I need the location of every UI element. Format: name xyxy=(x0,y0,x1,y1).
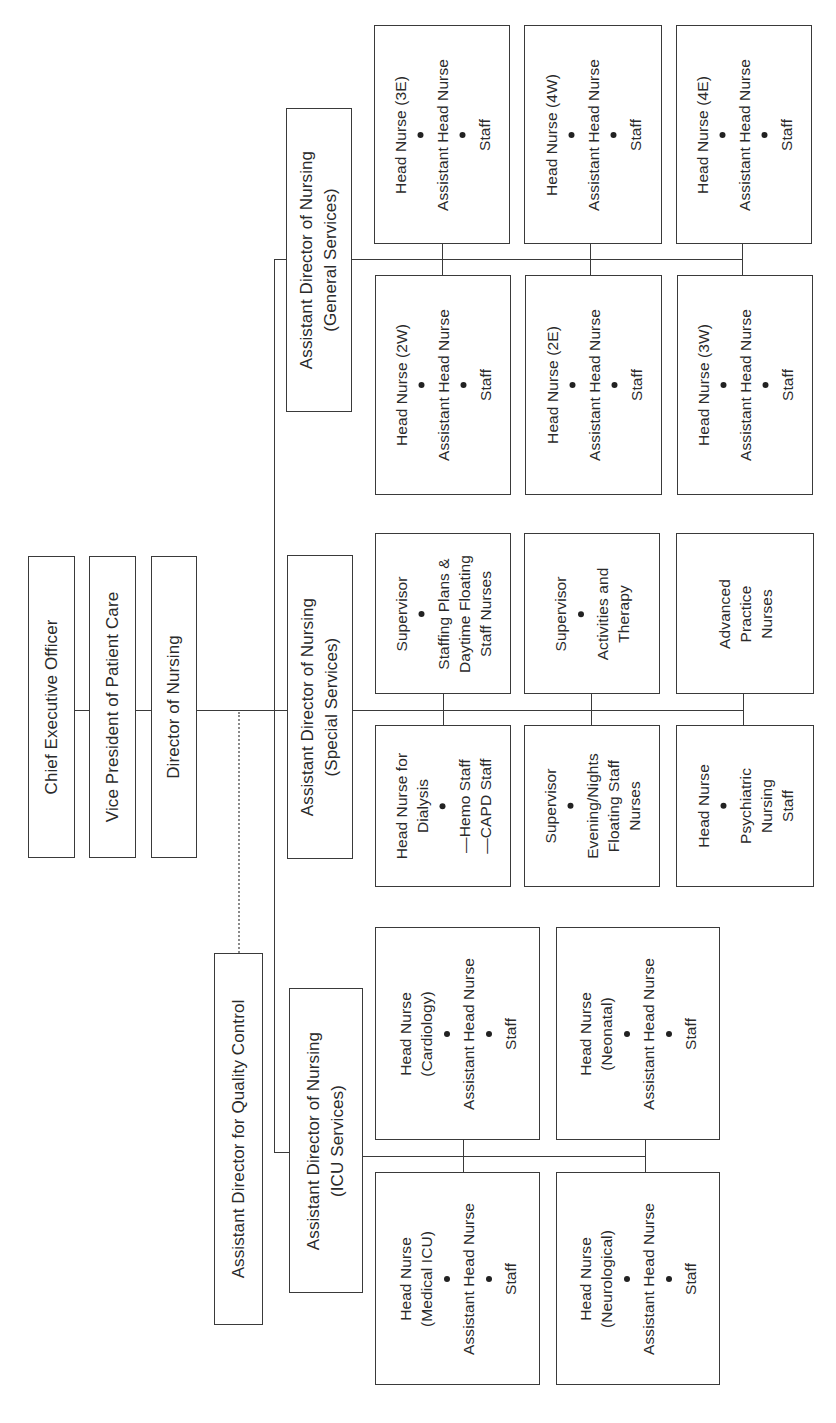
unit-specialty-label: (Neurological) xyxy=(596,1230,617,1328)
bullet-icon xyxy=(666,1031,672,1037)
ceo-label: Chief Executive Officer xyxy=(40,620,64,795)
bullet-icon xyxy=(624,1031,630,1037)
supervisor-label: Supervisor xyxy=(391,576,412,651)
assistant-head-nurse-label: Assistant Head Nurse xyxy=(735,309,756,461)
ceo-vp-connector xyxy=(75,710,89,711)
unit-desc-line: —Hemo Staff xyxy=(454,759,475,853)
assistant-head-nurse-label: Assistant Head Nurse xyxy=(734,59,755,211)
assistant-head-nurse-label: Assistant Head Nurse xyxy=(638,1203,659,1355)
special-unit-activities-supervisor: Supervisor Activities and Therapy xyxy=(524,533,660,694)
assistant-head-nurse-label: Assistant Head Nurse xyxy=(583,309,604,461)
special-col1-stem xyxy=(443,694,444,725)
unit-desc-line: Psychiatric xyxy=(735,768,756,844)
general-unit-3e: Head Nurse (3E) Assistant Head Nurse Sta… xyxy=(374,25,510,244)
unit-desc-line: —CAPD Staff xyxy=(475,758,496,854)
adon-general-box: Assistant Director of Nursing (General S… xyxy=(286,108,352,412)
head-nurse-label: Head Nurse for xyxy=(391,753,412,860)
quality-control-box: Assistant Director for Quality Control xyxy=(214,953,263,1325)
unit-desc-line: Nurses xyxy=(624,781,645,831)
vp-label: Vice President of Patient Care xyxy=(101,592,125,822)
special-col2-stem xyxy=(591,694,592,725)
assistant-head-nurse-label: Assistant Head Nurse xyxy=(433,309,454,461)
head-nurse-label: Head Nurse xyxy=(395,1237,416,1321)
adon-icu-box: Assistant Director of Nursing (ICU Servi… xyxy=(289,988,363,1293)
general-unit-2e: Head Nurse (2E) Assistant Head Nurse Sta… xyxy=(525,275,662,495)
unit-desc-line: Floating Staff xyxy=(603,760,624,852)
unit-desc-line: Staff xyxy=(777,790,798,822)
unit-desc-line: Activities and xyxy=(592,567,613,660)
adon-special-box: Assistant Director of Nursing (Special S… xyxy=(287,555,353,859)
head-nurse-label: Head Nurse (3E) xyxy=(390,76,411,194)
unit-specialty-label: (Cardiology) xyxy=(416,991,437,1077)
director-of-nursing-box: Director of Nursing xyxy=(151,556,197,858)
special-col3-stem xyxy=(743,694,744,725)
bullet-icon xyxy=(611,382,617,388)
bullet-icon xyxy=(419,611,425,617)
staff-label: Staff xyxy=(500,1262,521,1294)
bullet-icon xyxy=(440,803,446,809)
special-unit-evening-nights-supervisor: Supervisor Evening/Nights Floating Staff… xyxy=(524,725,660,887)
icu-bus xyxy=(363,1156,646,1157)
staff-label: Staff xyxy=(777,369,798,401)
head-nurse-label: Dialysis xyxy=(412,779,433,833)
adon-special-subtitle: (Special Services) xyxy=(320,638,344,777)
bullet-icon xyxy=(569,382,575,388)
head-nurse-label: Head Nurse (3W) xyxy=(693,324,714,446)
head-nurse-label: Head Nurse (4W) xyxy=(541,73,562,195)
general-col2-stem xyxy=(590,244,591,275)
icu-branch-connector xyxy=(274,1152,289,1153)
supervisor-label: Supervisor xyxy=(550,576,571,651)
assistant-head-nurse-label: Assistant Head Nurse xyxy=(458,958,479,1110)
unit-specialty-label: (Neonatal) xyxy=(596,997,617,1070)
special-unit-psychiatric: Head Nurse Psychiatric Nursing Staff xyxy=(676,725,814,887)
head-nurse-label: Head Nurse (2W) xyxy=(391,324,412,446)
bullet-icon xyxy=(666,1276,672,1282)
bullet-icon xyxy=(611,132,617,138)
head-nurse-label: Head Nurse (2E) xyxy=(541,326,562,444)
staff-label: Staff xyxy=(625,118,646,150)
bullet-icon xyxy=(721,382,727,388)
staff-label: Staff xyxy=(475,369,496,401)
staff-label: Staff xyxy=(474,118,495,150)
general-col1-stem xyxy=(442,244,443,275)
unit-desc-line: Daytime Floating xyxy=(454,555,475,673)
head-nurse-label: Head Nurse (4E) xyxy=(692,76,713,194)
bullet-icon xyxy=(460,132,466,138)
bullet-icon xyxy=(419,382,425,388)
adon-icu-subtitle: (ICU Services) xyxy=(326,1085,350,1197)
supervisor-label: Supervisor xyxy=(540,768,561,843)
bullet-icon xyxy=(486,1031,492,1037)
unit-desc-line: Staff Nurses xyxy=(475,570,496,656)
bullet-icon xyxy=(444,1276,450,1282)
icu-unit-cardiology: Head Nurse (Cardiology) Assistant Head N… xyxy=(375,927,540,1140)
main-trunk-line xyxy=(274,259,275,1153)
bullet-icon xyxy=(720,132,726,138)
icu-col1-stem xyxy=(463,1140,464,1172)
bullet-icon xyxy=(418,132,424,138)
bullet-icon xyxy=(569,132,575,138)
general-bus xyxy=(352,259,743,260)
general-unit-3w: Head Nurse (3W) Assistant Head Nurse Sta… xyxy=(677,275,813,495)
assistant-head-nurse-label: Assistant Head Nurse xyxy=(432,59,453,211)
unit-desc-line: Evening/Nights xyxy=(582,753,603,859)
unit-desc-line: Nurses xyxy=(756,589,777,639)
adon-general-title: Assistant Director of Nursing xyxy=(295,151,319,369)
head-nurse-label: Head Nurse xyxy=(693,764,714,848)
bullet-icon xyxy=(578,611,584,617)
vp-patient-care-box: Vice President of Patient Care xyxy=(89,556,136,858)
special-unit-advanced-practice: Advanced Practice Nurses xyxy=(676,533,814,694)
staff-label: Staff xyxy=(776,118,797,150)
ceo-box: Chief Executive Officer xyxy=(28,556,75,858)
vp-don-connector xyxy=(136,710,151,711)
staff-label: Staff xyxy=(500,1017,521,1049)
unit-desc-line: Practice xyxy=(735,585,756,642)
assistant-head-nurse-label: Assistant Head Nurse xyxy=(458,1203,479,1355)
general-unit-4e: Head Nurse (4E) Assistant Head Nurse Sta… xyxy=(676,25,812,244)
general-branch-connector xyxy=(274,259,286,260)
unit-desc-line: Advanced xyxy=(714,579,735,649)
general-unit-4w: Head Nurse (4W) Assistant Head Nurse Sta… xyxy=(524,25,662,244)
bullet-icon xyxy=(624,1276,630,1282)
icu-unit-neonatal: Head Nurse (Neonatal) Assistant Head Nur… xyxy=(556,927,720,1140)
bullet-icon xyxy=(444,1031,450,1037)
unit-specialty-label: (Medical ICU) xyxy=(416,1230,437,1326)
